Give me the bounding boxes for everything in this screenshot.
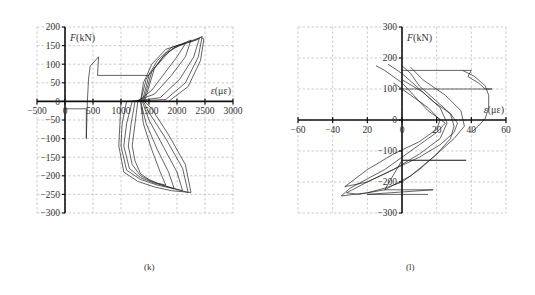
y-tick-label: −200 [377, 177, 397, 187]
x-tick-label: 40 [467, 125, 477, 135]
y-tick-label: −300 [40, 208, 60, 218]
chart-panel-k: −500050010001500200025003000200150100500… [27, 22, 243, 218]
x-tick-label: 500 [86, 106, 101, 116]
y-tick-label: 300 [383, 22, 398, 32]
y-tick-label: 0 [392, 115, 397, 125]
y-axis-label: F(kN) [406, 32, 432, 44]
x-tick-label: 1000 [112, 106, 131, 116]
y-tick-label: −200 [40, 171, 60, 181]
y-tick-label: 200 [46, 22, 61, 32]
caption-k: (k) [144, 262, 155, 272]
y-tick-label: 100 [46, 60, 61, 70]
y-tick-label: 100 [383, 84, 398, 94]
y-axis-label: F(kN) [69, 32, 95, 44]
x-axis-label: ε(με) [484, 104, 504, 116]
y-tick-label: −250 [40, 190, 60, 200]
y-tick-label: −100 [40, 134, 60, 144]
x-tick-label: 2000 [168, 106, 187, 116]
caption-l: (l) [406, 262, 415, 272]
x-tick-label: 0 [63, 106, 68, 116]
x-tick-label: 20 [432, 125, 442, 135]
y-tick-label: −50 [45, 115, 60, 125]
chart-panel-l: −60−402002040603002001000−100−200−300F(k… [291, 22, 511, 218]
x-tick-label: 0 [400, 125, 405, 135]
x-tick-label: −40 [325, 125, 340, 135]
x-tick-label: 2500 [196, 106, 215, 116]
y-tick-label: −300 [377, 208, 397, 218]
series-line [124, 38, 200, 191]
chart-k-load-strain: −500050010001500200025003000200150100500… [0, 0, 535, 295]
y-tick-label: 200 [383, 53, 398, 63]
x-tick-label: 60 [501, 125, 511, 135]
y-tick-label: 50 [51, 78, 61, 88]
y-tick-label: 0 [55, 97, 60, 107]
x-tick-label: 3000 [224, 106, 243, 116]
y-tick-label: −150 [40, 153, 60, 163]
y-tick-label: 150 [46, 41, 61, 51]
series-line [65, 57, 149, 139]
x-tick-label: −60 [291, 125, 306, 135]
y-tick-label: −100 [377, 146, 397, 156]
x-axis-label: ε(με) [211, 85, 231, 97]
series-line [463, 70, 489, 132]
x-tick-label: −500 [27, 106, 47, 116]
x-tick-label: 20 [363, 125, 373, 135]
x-tick-label: 1500 [140, 106, 159, 116]
